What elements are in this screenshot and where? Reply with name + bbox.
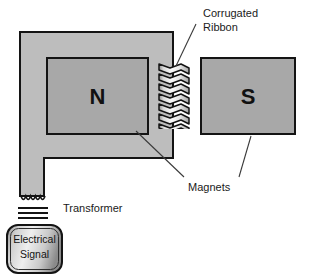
- north-magnet: N: [47, 58, 148, 134]
- corrugated-ribbon-label-line1: Corrugated: [203, 7, 258, 19]
- magnets-label: Magnets: [188, 181, 231, 193]
- ribbon-microphone-diagram: N S: [0, 0, 309, 279]
- south-pole-label: S: [241, 84, 256, 109]
- leader-magnets-south: [239, 136, 251, 177]
- transformer-label: Transformer: [63, 202, 123, 214]
- corrugated-ribbon-label-line2: Ribbon: [203, 21, 238, 33]
- north-pole-label: N: [90, 84, 106, 109]
- leader-corrugated-ribbon: [176, 24, 196, 66]
- diagram-canvas: N S: [0, 0, 309, 279]
- signal-label-line1: Electrical: [13, 233, 56, 245]
- signal-label-line2: Signal: [20, 248, 49, 260]
- electrical-signal-box: Electrical Signal: [7, 225, 62, 273]
- transformer-core: [18, 208, 48, 218]
- south-magnet: S: [201, 58, 295, 134]
